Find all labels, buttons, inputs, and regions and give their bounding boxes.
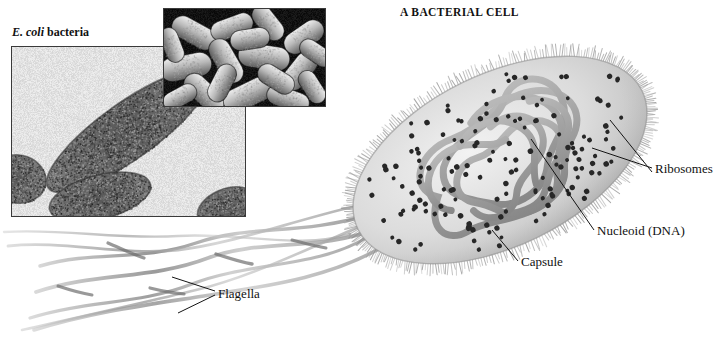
figure-title: A BACTERIAL CELL [400, 6, 519, 18]
flagella-group [4, 206, 384, 330]
callout-flagella: Flagella [218, 286, 260, 302]
photo-panel-caption: E. coli bacteria [12, 25, 89, 40]
caption-suffix: bacteria [47, 25, 89, 39]
callout-capsule: Capsule [521, 254, 563, 270]
capsule-layer [320, 13, 679, 306]
caption-species-name: E. coli [12, 25, 44, 39]
callout-ribosomes: Ribosomes [655, 161, 713, 177]
bacterial-cell [304, 0, 697, 323]
sem-micrograph [163, 8, 326, 107]
callout-nucleoid: Nucleoid (DNA) [597, 223, 685, 239]
bacterial-cell-figure: A BACTERIAL CELL E. coli bacteria Riboso… [0, 0, 717, 337]
